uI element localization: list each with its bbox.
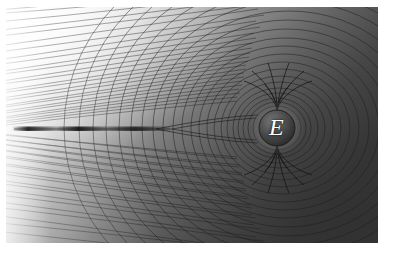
field-line-figure: E <box>6 7 378 243</box>
body-circle <box>259 110 295 146</box>
field-line-plate <box>6 7 378 243</box>
left-fade-overlay <box>6 7 156 243</box>
plate-contents <box>6 7 378 243</box>
figure-page: E <box>0 0 396 261</box>
